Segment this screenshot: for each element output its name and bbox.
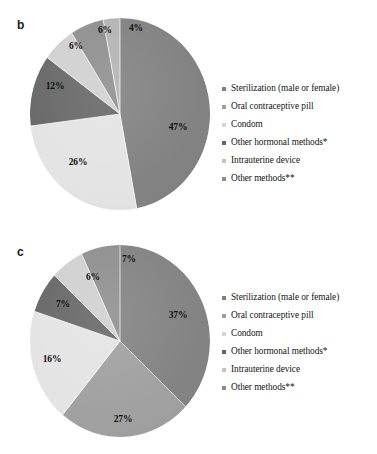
legend-label: Oral contraceptive pill	[231, 310, 314, 321]
legend-item-condom: Condom	[222, 325, 374, 342]
pie-shading-c	[30, 245, 210, 437]
legend-swatch-icon	[222, 386, 226, 390]
legend-label: Condom	[231, 328, 263, 339]
legend-item-sterilization: Sterilization (male or female)	[222, 289, 374, 306]
panel-b: b	[0, 0, 377, 227]
legend-c: Sterilization (male or female) Oral cont…	[222, 289, 374, 397]
panel-label-b: b	[17, 18, 25, 32]
legend-label: Intrauterine device	[231, 364, 300, 375]
legend-label: Intrauterine device	[231, 155, 300, 166]
legend-swatch-icon	[222, 141, 226, 145]
legend-swatch-icon	[222, 105, 226, 109]
legend-item-other-methods: Other methods**	[222, 170, 374, 187]
pie-value-label: 4%	[129, 23, 143, 33]
legend-item-condom: Condom	[222, 116, 374, 133]
pie-value-label: 26%	[69, 157, 88, 167]
legend-swatch-icon	[222, 314, 226, 318]
pie-svg-b	[30, 18, 210, 210]
legend-label: Oral contraceptive pill	[231, 101, 314, 112]
pie-body-b	[30, 18, 210, 210]
pie-body-c	[30, 245, 210, 437]
pie-value-label: 37%	[169, 310, 188, 320]
legend-swatch-icon	[222, 159, 226, 163]
legend-item-other-methods: Other methods**	[222, 379, 374, 396]
legend-item-other-hormonal-methods: Other hormonal methods*	[222, 343, 374, 360]
pie-chart-c: 37% 27% 16% 7% 6% 7%	[30, 241, 210, 441]
legend-label: Sterilization (male or female)	[231, 83, 339, 94]
pie-value-label: 27%	[114, 414, 133, 424]
legend-b: Sterilization (male or female) Oral cont…	[222, 80, 374, 188]
pie-value-label: 6%	[69, 41, 83, 51]
legend-item-sterilization: Sterilization (male or female)	[222, 80, 374, 97]
pie-value-label: 12%	[46, 81, 65, 91]
legend-swatch-icon	[222, 123, 226, 127]
legend-label: Sterilization (male or female)	[231, 292, 339, 303]
legend-swatch-icon	[222, 87, 226, 91]
legend-swatch-icon	[222, 296, 226, 300]
panel-c: c	[0, 227, 377, 454]
legend-label: Other methods**	[231, 382, 295, 393]
legend-item-intrauterine-device: Intrauterine device	[222, 152, 374, 169]
panel-label-c: c	[17, 245, 24, 259]
legend-swatch-icon	[222, 350, 226, 354]
pie-shading-b	[30, 18, 210, 210]
pie-value-label: 7%	[122, 254, 136, 264]
legend-swatch-icon	[222, 177, 226, 181]
legend-label: Other hormonal methods*	[231, 137, 327, 148]
legend-swatch-icon	[222, 332, 226, 336]
legend-item-oral-contraceptive-pill: Oral contraceptive pill	[222, 98, 374, 115]
pie-svg-c	[30, 245, 210, 437]
legend-label: Condom	[231, 119, 263, 130]
legend-label: Other hormonal methods*	[231, 346, 327, 357]
pie-value-label: 6%	[86, 272, 100, 282]
pie-value-label: 7%	[56, 299, 70, 309]
legend-item-oral-contraceptive-pill: Oral contraceptive pill	[222, 307, 374, 324]
pie-value-label: 47%	[169, 122, 188, 132]
legend-label: Other methods**	[231, 173, 295, 184]
pie-value-label: 16%	[43, 354, 62, 364]
legend-swatch-icon	[222, 368, 226, 372]
legend-item-other-hormonal-methods: Other hormonal methods*	[222, 134, 374, 151]
pie-value-label: 6%	[98, 25, 112, 35]
pie-chart-b: 47% 26% 12% 6% 6% 4%	[30, 14, 210, 214]
legend-item-intrauterine-device: Intrauterine device	[222, 361, 374, 378]
